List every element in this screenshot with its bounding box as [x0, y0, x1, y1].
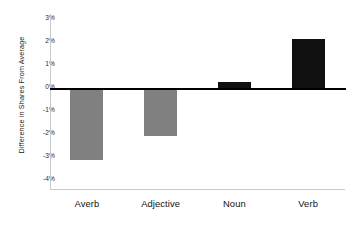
- x-tick-label-noun: Noun: [198, 198, 272, 209]
- x-tick-label-adjective: Adjective: [124, 198, 198, 209]
- bar-averb: [70, 89, 103, 159]
- bar-chart: Difference in Shares From Average 3% 2% …: [0, 0, 351, 234]
- x-tick-label-averb: Averb: [50, 198, 124, 209]
- y-axis-title: Difference in Shares From Average: [14, 0, 28, 190]
- bar-adjective: [144, 89, 177, 136]
- x-tick-label-verb: Verb: [271, 198, 345, 209]
- zero-baseline: [50, 88, 346, 90]
- bar-verb: [292, 39, 325, 89]
